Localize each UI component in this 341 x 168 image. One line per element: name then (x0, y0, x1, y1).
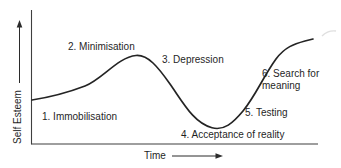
stage-label-depression: 3. Depression (162, 54, 224, 66)
x-axis-label: Time (144, 150, 166, 161)
stage-label-testing: 5. Testing (245, 107, 288, 119)
stage-label-immobilisation: 1. Immobilisation (42, 111, 117, 123)
x-axis-arrow-icon (172, 153, 223, 158)
stage-label-minimisation: 2. Minimisation (68, 41, 135, 53)
transition-curve-figure: Self Esteem Time 1. Immobilisation 2. Mi… (0, 0, 341, 168)
stage-label-acceptance: 4. Acceptance of reality (181, 129, 284, 141)
y-axis-label: Self Esteem (12, 90, 23, 144)
scan-artifact (322, 31, 336, 36)
stage-label-search-for-meaning: 6. Search for meaning (262, 68, 328, 92)
y-axis-arrow-icon (17, 20, 23, 83)
